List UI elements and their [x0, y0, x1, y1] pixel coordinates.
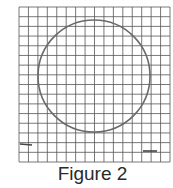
circle: [38, 20, 150, 132]
figure-caption: Figure 2: [0, 162, 173, 186]
figure: Figure 2: [0, 0, 173, 188]
grid-diagram: [0, 0, 173, 188]
left-tick-mark: [20, 144, 32, 145]
grid: [19, 7, 170, 162]
